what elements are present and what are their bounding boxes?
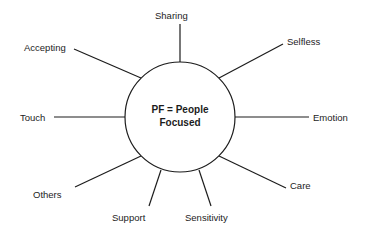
center-label: PF = People Focused [125,104,235,129]
spoke-label-support: Support [112,212,145,223]
spoke-label-selfless: Selfless [287,36,320,47]
mind-map-diagram: PF = People Focused SharingSelflessEmoti… [0,0,370,236]
spoke-line-selfless [219,44,283,78]
spoke-label-accepting: Accepting [24,42,66,53]
spoke-label-sensitivity: Sensitivity [185,212,228,223]
spoke-line-accepting [74,49,141,78]
spoke-label-sharing: Sharing [155,10,188,21]
spoke-line-sensitivity [199,170,211,206]
spoke-label-others: Others [33,189,62,200]
spoke-line-care [219,156,286,188]
spoke-line-support [149,170,161,206]
spoke-label-care: Care [290,180,311,191]
spoke-label-emotion: Emotion [313,112,348,123]
spoke-line-others [75,156,141,187]
spoke-label-touch: Touch [20,112,45,123]
